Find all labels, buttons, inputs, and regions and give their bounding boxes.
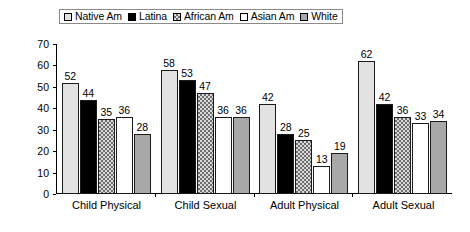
bar-value-label: 35 [101, 107, 113, 118]
bar-value-label: 47 [199, 81, 211, 92]
bar-value-label: 36 [217, 105, 229, 116]
bar-slot: 62 [358, 44, 375, 194]
bar-value-label: 44 [83, 88, 95, 99]
bar-slot: 36 [116, 44, 133, 194]
bar-value-label: 13 [316, 154, 328, 165]
y-axis-tick-mark [53, 108, 56, 109]
legend-item[interactable]: Asian Am [240, 11, 301, 22]
bar[interactable] [161, 70, 178, 194]
legend-item-label: African Am [184, 11, 234, 22]
bar[interactable] [179, 80, 196, 194]
bar[interactable] [98, 119, 115, 194]
bar-slot: 58 [161, 44, 178, 194]
bar[interactable] [116, 117, 133, 194]
legend-item-label: Latina [139, 11, 167, 22]
plot-area: 010203040506070 524435362858534736364228… [56, 44, 452, 194]
y-axis-tick-mark [53, 130, 56, 131]
bar-slot: 53 [179, 44, 196, 194]
y-axis-tick-mark [53, 44, 56, 45]
bar-value-label: 42 [379, 92, 391, 103]
bar-slot: 36 [394, 44, 411, 194]
bar[interactable] [80, 100, 97, 194]
bar-slot: 36 [215, 44, 232, 194]
bar[interactable] [295, 140, 312, 194]
y-axis-tick-mark [53, 151, 56, 152]
x-axis-group-separator [352, 194, 353, 197]
bar-group: 4228251319 [255, 44, 354, 194]
bar[interactable] [134, 134, 151, 194]
bar[interactable] [259, 104, 276, 194]
bar-value-label: 58 [163, 58, 175, 69]
bar-groups: 5244353628585347363642282513196242363334 [57, 44, 452, 194]
bar[interactable] [197, 93, 214, 194]
bar[interactable] [331, 153, 348, 194]
bar-group: 6242363334 [353, 44, 452, 194]
bar-value-label: 52 [65, 71, 77, 82]
bar-group: 5853473636 [156, 44, 255, 194]
legend-item[interactable]: Latina [128, 11, 173, 22]
bar-value-label: 28 [280, 122, 292, 133]
bar-slot: 44 [80, 44, 97, 194]
category-label: Adult Physical [255, 199, 354, 212]
bar-value-label: 62 [361, 49, 373, 60]
bar-value-label: 25 [298, 128, 310, 139]
bar-value-label: 19 [334, 141, 346, 152]
bar[interactable] [394, 117, 411, 194]
bar[interactable] [313, 166, 330, 194]
bar-value-label: 34 [433, 109, 445, 120]
bar-value-label: 42 [262, 92, 274, 103]
category-label: Adult Sexual [354, 199, 453, 212]
bar-value-label: 53 [181, 68, 193, 79]
bar-slot: 28 [134, 44, 151, 194]
bar-chart: Native AmLatinaAfrican AmAsian AmWhite 0… [0, 0, 470, 232]
legend-item-label: Native Am [75, 11, 122, 22]
legend-swatch-icon [128, 13, 136, 21]
legend-item[interactable]: African Am [173, 11, 240, 22]
bar-slot: 13 [313, 44, 330, 194]
bar-slot: 36 [233, 44, 250, 194]
y-axis-tick-mark [53, 194, 56, 195]
bar-slot: 47 [197, 44, 214, 194]
category-label: Child Physical [57, 199, 156, 212]
legend-item-label: White [311, 11, 337, 22]
bar[interactable] [215, 117, 232, 194]
bar-slot: 35 [98, 44, 115, 194]
category-label: Child Sexual [156, 199, 255, 212]
bar[interactable] [62, 83, 79, 194]
x-axis-group-separator [155, 194, 156, 197]
bar[interactable] [277, 134, 294, 194]
legend-item-label: Asian Am [251, 11, 295, 22]
bar[interactable] [412, 123, 429, 194]
x-axis-category-labels: Child PhysicalChild SexualAdult Physical… [57, 199, 453, 212]
bar-group: 5244353628 [57, 44, 156, 194]
y-axis-tick-mark [53, 87, 56, 88]
legend-swatch-icon [240, 13, 248, 21]
bar-value-label: 28 [137, 122, 149, 133]
legend-item[interactable]: White [300, 11, 337, 22]
bar-value-label: 36 [235, 105, 247, 116]
y-axis-tick-mark [53, 65, 56, 66]
legend-swatch-icon [173, 13, 181, 21]
bar-slot: 25 [295, 44, 312, 194]
bar[interactable] [430, 121, 447, 194]
legend-item[interactable]: Native Am [64, 11, 128, 22]
bar-slot: 42 [376, 44, 393, 194]
bar-slot: 52 [62, 44, 79, 194]
bar-value-label: 33 [415, 111, 427, 122]
chart-legend: Native AmLatinaAfrican AmAsian AmWhite [59, 9, 343, 24]
bar[interactable] [233, 117, 250, 194]
bar-value-label: 36 [119, 105, 131, 116]
bar-slot: 34 [430, 44, 447, 194]
bar-value-label: 36 [397, 105, 409, 116]
legend-swatch-icon [64, 13, 72, 21]
y-axis-tick-mark [53, 173, 56, 174]
bar-slot: 19 [331, 44, 348, 194]
bar[interactable] [358, 61, 375, 194]
bar[interactable] [376, 104, 393, 194]
bar-slot: 42 [259, 44, 276, 194]
x-axis-group-separator [254, 194, 255, 197]
bar-slot: 33 [412, 44, 429, 194]
bar-slot: 28 [277, 44, 294, 194]
legend-swatch-icon [300, 13, 308, 21]
